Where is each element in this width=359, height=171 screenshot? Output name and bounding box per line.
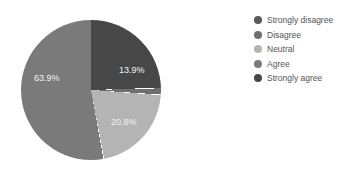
legend-item-disagree: Disagree [254,28,333,43]
pie-chart [21,20,161,160]
legend-item-strongly-agree: Strongly agree [254,71,333,86]
legend-label: Neutral [267,44,294,54]
slice-label-neutral: 20.8% [111,117,137,127]
slice-label-agree: 63.9% [34,73,60,83]
legend-dot-icon [254,16,262,24]
chart-legend: Strongly disagree Disagree Neutral Agree… [254,13,333,86]
legend-item-agree: Agree [254,57,333,72]
legend-dot-icon [254,31,262,39]
legend-label: Strongly disagree [267,15,333,25]
legend-label: Disagree [267,30,301,40]
legend-item-strongly-disagree: Strongly disagree [254,13,333,28]
legend-dot-icon [254,60,262,68]
legend-dot-icon [254,45,262,53]
legend-dot-icon [254,74,262,82]
slice-label-strongly-agree: 13.9% [119,65,145,75]
legend-item-neutral: Neutral [254,42,333,57]
legend-label: Agree [267,59,290,69]
legend-label: Strongly agree [267,73,322,83]
